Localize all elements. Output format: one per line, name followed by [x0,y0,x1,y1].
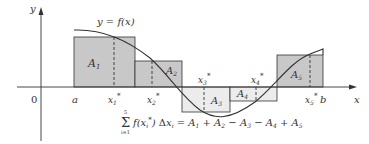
riemann-sum-diagram: y x 0 a b y = f(x) x1* x2* x3* x4* x5* A… [0,0,369,144]
rect-A3 [182,87,230,112]
y-axis-label: y [29,3,36,14]
riemann-sum-formula: Σ 5 i=1 f(xi*) Δxi = A1 + A2 − A3 − A4 +… [121,109,303,135]
origin-label: 0 [31,94,37,105]
y-axis-arrow-icon [39,7,44,15]
x5-star-label: x5* [305,92,318,106]
x2-star-label: x2* [147,92,160,106]
x-axis-arrow-icon [349,85,357,90]
x1-star-label: x1* [108,92,121,106]
x-axis-label: x [354,94,360,105]
rect-A1 [74,37,135,87]
curve-label: y = f(x) [96,16,135,27]
x4-star-label: x4* [251,72,264,86]
a-label: a [72,94,78,105]
svg-text:i=1: i=1 [121,129,130,135]
svg-text:Σ: Σ [121,115,130,130]
svg-text:5: 5 [124,109,127,115]
b-label: b [320,94,326,105]
svg-text:f(xi*) Δxi = A1 + A2 − A3 − A4: f(xi*) Δxi = A1 + A2 − A3 − A4 + A5 [132,116,303,129]
x3-star-label: x3* [198,72,211,86]
